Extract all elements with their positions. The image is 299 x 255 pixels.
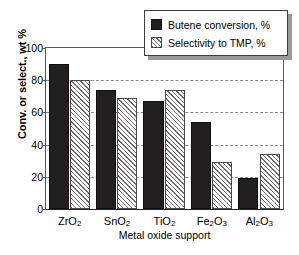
y-axis-title: Conv. or select., wt % [16, 9, 28, 159]
legend-item: Selectivity to TMP, % [151, 34, 287, 51]
x-axis-tick-label: SnO2 [104, 215, 130, 228]
bar [49, 64, 69, 209]
x-axis-tick-label: Fe2O3 [197, 215, 227, 228]
x-axis-title: Metal oxide support [45, 229, 284, 241]
bar [191, 122, 211, 209]
bar [143, 101, 163, 209]
legend-label: Butene conversion, % [168, 19, 270, 31]
legend-swatch-butene-conversion-icon [151, 19, 162, 30]
bar-group: ZrO2 [46, 48, 93, 209]
x-axis-tick-label: Al2O3 [246, 215, 273, 228]
bar-group: SnO2 [93, 48, 140, 209]
bar-group: Al2O3 [236, 48, 283, 209]
chart-legend: Butene conversion, % Selectivity to TMP,… [144, 10, 288, 56]
bar [212, 162, 232, 209]
bar [96, 90, 116, 209]
y-axis-tick-label: 100 [25, 42, 43, 54]
y-axis-tick-mark [42, 209, 46, 210]
plot-area: 020406080100ZrO2SnO2TiO2Fe2O3Al2O3 [45, 47, 284, 210]
bar-group: Fe2O3 [188, 48, 235, 209]
bar [260, 154, 280, 209]
x-axis-tick-label: ZrO2 [58, 215, 81, 228]
bar [70, 80, 90, 209]
bar [117, 98, 137, 209]
bar-chart-figure: Conv. or select., wt % 020406080100ZrO2S… [0, 0, 299, 255]
bar-group: TiO2 [141, 48, 188, 209]
legend-item: Butene conversion, % [151, 16, 287, 33]
bar [238, 178, 258, 209]
legend-swatch-selectivity-tmp-icon [151, 37, 162, 48]
x-axis-tick-label: TiO2 [154, 215, 176, 228]
legend-label: Selectivity to TMP, % [168, 37, 266, 49]
bar [165, 90, 185, 209]
